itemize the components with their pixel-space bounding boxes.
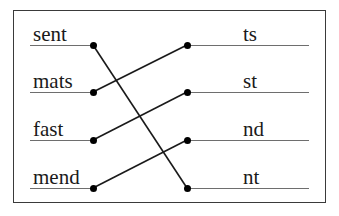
right-word-label-st: st	[243, 71, 257, 92]
right-endpoint-dot-nd[interactable]	[184, 137, 191, 144]
right-endpoint-dot-ts[interactable]	[184, 42, 191, 49]
right-word-label-nt: nt	[243, 167, 259, 188]
left-rule-mend	[30, 188, 93, 189]
right-word-label-nd: nd	[243, 119, 264, 140]
left-endpoint-dot-mend[interactable]	[90, 185, 97, 192]
right-rule-st	[187, 92, 309, 93]
left-word-label-mats: mats	[33, 71, 73, 92]
right-rule-nt	[187, 188, 309, 189]
left-rule-sent	[30, 45, 93, 46]
left-word-label-fast: fast	[33, 119, 63, 140]
left-endpoint-dot-fast[interactable]	[90, 137, 97, 144]
right-endpoint-dot-st[interactable]	[184, 89, 191, 96]
left-word-label-sent: sent	[33, 24, 67, 45]
right-endpoint-dot-nt[interactable]	[184, 185, 191, 192]
right-rule-ts	[187, 45, 309, 46]
left-word-label-mend: mend	[33, 167, 80, 188]
left-endpoint-dot-sent[interactable]	[90, 42, 97, 49]
left-rule-mats	[30, 92, 93, 93]
right-rule-nd	[187, 140, 309, 141]
left-rule-fast	[30, 140, 93, 141]
left-endpoint-dot-mats[interactable]	[90, 89, 97, 96]
right-word-label-ts: ts	[243, 24, 257, 45]
